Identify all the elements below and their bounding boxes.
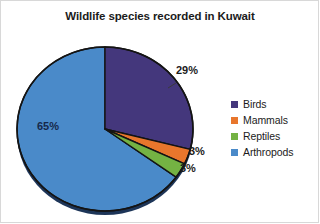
legend-label-birds: Birds (243, 98, 266, 110)
pie-label-birds: 29% (176, 64, 198, 76)
legend-swatch-reptiles-icon (231, 133, 238, 140)
legend-item-mammals[interactable]: Mammals (231, 112, 317, 128)
chart-legend: Birds Mammals Reptiles Arthropods (231, 96, 317, 160)
pie-label-mammals: 3% (189, 145, 205, 157)
legend-item-arthropods[interactable]: Arthropods (231, 144, 317, 160)
legend-item-reptiles[interactable]: Reptiles (231, 128, 317, 144)
legend-label-mammals: Mammals (243, 114, 288, 126)
legend-swatch-mammals-icon (231, 117, 238, 124)
legend-item-birds[interactable]: Birds (231, 96, 317, 112)
pie-label-arthropods: 65% (37, 120, 59, 132)
chart-title: Wildlife species recorded in Kuwait (0, 10, 320, 22)
pie-label-reptiles: 3% (180, 162, 196, 174)
pie-plot-area: 29% 3% 3% 65% (0, 28, 224, 224)
legend-label-arthropods: Arthropods (243, 146, 293, 158)
legend-swatch-birds-icon (231, 101, 238, 108)
legend-swatch-arthropods-icon (231, 149, 238, 156)
legend-label-reptiles: Reptiles (243, 130, 280, 142)
chart-screenshot: Wildlife species recorded in Kuwait (0, 0, 320, 224)
pie-chart-graphic (0, 28, 224, 224)
